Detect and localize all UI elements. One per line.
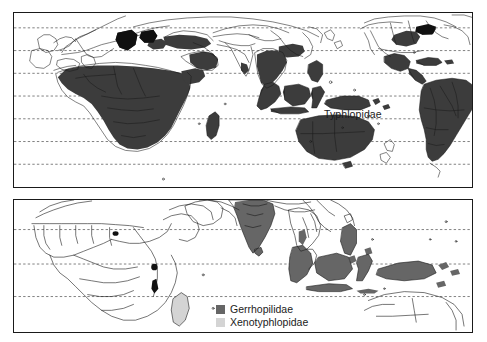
world-map-top xyxy=(14,13,472,187)
map-panel-typhlopidae: Typhlopidae xyxy=(13,12,473,188)
legend-swatch-gerrhopilidae xyxy=(216,305,225,314)
legend-item-gerrhopilidae: Gerrhopilidae xyxy=(216,303,308,315)
distribution-map-figure: Typhlopidae xyxy=(0,0,487,342)
legend-swatch-xenotyphlopidae xyxy=(216,318,225,327)
legend-label-gerrhopilidae: Gerrhopilidae xyxy=(230,303,293,315)
legend-item-xenotyphlopidae: Xenotyphlopidae xyxy=(216,316,308,328)
map-legend: Gerrhopilidae Xenotyphlopidae xyxy=(216,303,308,328)
map-label-typhlopidae: Typhlopidae xyxy=(324,108,382,120)
legend-label-xenotyphlopidae: Xenotyphlopidae xyxy=(230,316,308,328)
